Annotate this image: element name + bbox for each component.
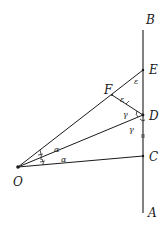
point-d-dot: [142, 114, 145, 117]
label-c: C: [149, 150, 158, 164]
label-b: B: [145, 13, 155, 27]
label-e: E: [148, 63, 158, 77]
angle-label-epsilon-e: ε: [134, 77, 138, 86]
angle-arc-o-lower: [42, 159, 43, 165]
tick-fd: [126, 101, 129, 104]
segment-od: [18, 115, 143, 167]
angle-label-gamma-lower: γ: [129, 125, 134, 134]
tick-o-upper: [38, 154, 43, 155]
angle-arc-o-upper: [40, 150, 41, 160]
label-a: A: [147, 206, 157, 220]
angle-label-gamma-upper: γ: [123, 110, 128, 119]
angle-label-alpha-lower: α: [61, 155, 67, 164]
geometry-diagram: B E F D C A O α α ε ε γ γ: [0, 0, 168, 228]
tick-o-lower: [40, 161, 45, 162]
point-e-dot: [142, 69, 144, 71]
angle-label-alpha-upper: α: [54, 145, 60, 154]
point-c-dot: [142, 155, 144, 157]
label-d: D: [148, 109, 159, 123]
angle-label-epsilon-f: ε: [120, 95, 124, 104]
label-o: O: [13, 175, 23, 189]
point-o-dot: [16, 165, 20, 169]
label-f: F: [103, 83, 113, 97]
diagram-svg: B E F D C A O α α ε ε γ γ: [0, 0, 168, 228]
segment-oc: [18, 156, 143, 167]
